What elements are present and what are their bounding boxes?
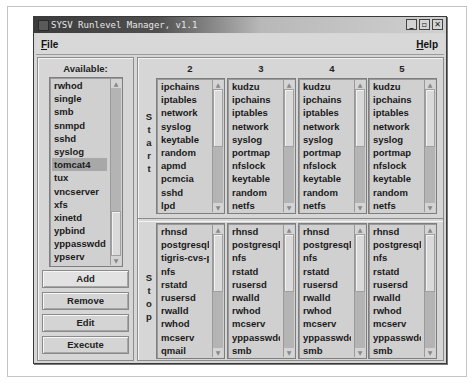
start-service-item[interactable]: syslog [159, 120, 209, 133]
scroll-up-arrow-icon[interactable]: ▲ [425, 225, 435, 234]
scroll-down-arrow-icon[interactable]: ▼ [284, 203, 294, 212]
stop-service-item[interactable]: rusersd [371, 278, 421, 291]
scroll-down-arrow-icon[interactable]: ▼ [213, 348, 223, 357]
stop-service-item[interactable]: rusersd [230, 278, 280, 291]
stop-service-item[interactable]: rhnsd [301, 225, 351, 238]
start-service-item[interactable]: keytable [301, 172, 351, 185]
window-menu-icon[interactable] [38, 20, 49, 31]
start-service-item[interactable]: lpd [159, 199, 209, 212]
scroll-down-arrow-icon[interactable]: ▼ [213, 203, 223, 212]
available-item[interactable]: ypbind [52, 224, 107, 237]
start-service-item[interactable]: portmap [301, 146, 351, 159]
stop-service-item[interactable]: nfs [301, 251, 351, 264]
stop-service-item[interactable]: smb [301, 344, 351, 357]
scroll-thumb[interactable] [355, 234, 365, 292]
stop-scrollbar[interactable]: ▲▼ [212, 225, 223, 357]
stop-listbox-runlevel-2[interactable]: rhnsdpostgresqltigris-cvs-psnfsrstatdrus… [156, 223, 225, 359]
available-item[interactable]: xinetd [52, 211, 107, 224]
start-service-item[interactable]: network [301, 120, 351, 133]
scroll-down-arrow-icon[interactable]: ▼ [284, 348, 294, 357]
start-service-item[interactable]: syslog [230, 133, 280, 146]
stop-service-item[interactable]: postgresql [371, 238, 421, 251]
scroll-thumb[interactable] [425, 234, 435, 292]
start-listbox-runlevel-3[interactable]: kudzuipchainsiptablesnetworksyslogportma… [227, 78, 296, 214]
stop-service-item[interactable]: nfs [371, 251, 421, 264]
available-item[interactable]: snmpd [52, 119, 107, 132]
scroll-thumb[interactable] [213, 234, 223, 292]
available-item[interactable]: yppasswdd [52, 237, 107, 250]
start-service-item[interactable]: random [230, 186, 280, 199]
scroll-thumb[interactable] [355, 89, 365, 147]
start-service-item[interactable]: kudzu [371, 80, 421, 93]
stop-service-item[interactable]: nfs [230, 251, 280, 264]
start-service-item[interactable]: sshd [159, 186, 209, 199]
scroll-down-arrow-icon[interactable]: ▼ [111, 256, 121, 265]
stop-listbox-runlevel-3[interactable]: rhnsdpostgresqlnfsrstatdrusersdrwalldrwh… [227, 223, 296, 359]
stop-service-item[interactable]: rstatd [371, 265, 421, 278]
start-scrollbar[interactable]: ▲▼ [424, 80, 435, 212]
start-service-item[interactable]: iptables [230, 106, 280, 119]
start-service-item[interactable]: network [371, 120, 421, 133]
title-bar[interactable]: SYSV Runlevel Manager, v1.1 _ ▫ ✕ [34, 17, 446, 33]
start-scrollbar[interactable]: ▲▼ [354, 80, 365, 212]
start-service-item[interactable]: pcmcia [159, 172, 209, 185]
available-item[interactable]: syslog [52, 145, 107, 158]
scroll-thumb[interactable] [425, 89, 435, 147]
scroll-thumb[interactable] [213, 89, 223, 147]
start-service-item[interactable]: apmd [159, 159, 209, 172]
scroll-thumb[interactable] [284, 89, 294, 147]
edit-button[interactable]: Edit [42, 314, 129, 332]
stop-service-item[interactable]: tigris-cvs-ps [159, 251, 209, 264]
start-service-item[interactable]: iptables [301, 106, 351, 119]
start-service-item[interactable]: netfs [301, 199, 351, 212]
start-listbox-runlevel-5[interactable]: kudzuipchainsiptablesnetworksyslogportma… [368, 78, 437, 214]
remove-button[interactable]: Remove [42, 292, 129, 310]
add-button[interactable]: Add [42, 270, 129, 288]
start-service-item[interactable]: netfs [371, 199, 421, 212]
stop-service-item[interactable]: rwhod [301, 304, 351, 317]
scroll-up-arrow-icon[interactable]: ▲ [213, 80, 223, 89]
stop-service-item[interactable]: rhnsd [159, 225, 209, 238]
stop-service-item[interactable]: rwhod [159, 317, 209, 330]
menu-help[interactable]: Help [416, 39, 438, 50]
start-scrollbar[interactable]: ▲▼ [212, 80, 223, 212]
stop-listbox-runlevel-5[interactable]: rhnsdpostgresqlnfsrstatdrusersdrwalldrwh… [368, 223, 437, 359]
stop-service-item[interactable]: postgresql [159, 238, 209, 251]
stop-service-item[interactable]: rwalld [159, 304, 209, 317]
stop-service-item[interactable]: mcserv [230, 317, 280, 330]
available-item[interactable]: xfs [52, 198, 107, 211]
start-listbox-runlevel-4[interactable]: kudzuipchainsiptablesnetworksyslogportma… [298, 78, 367, 214]
start-service-item[interactable]: random [301, 186, 351, 199]
start-scrollbar[interactable]: ▲▼ [283, 80, 294, 212]
stop-service-item[interactable]: rwhod [230, 304, 280, 317]
start-service-item[interactable]: nfslock [371, 159, 421, 172]
start-service-item[interactable]: syslog [371, 133, 421, 146]
start-service-item[interactable]: ipchains [301, 93, 351, 106]
stop-service-item[interactable]: rhnsd [371, 225, 421, 238]
available-item[interactable]: tomcat4 [52, 158, 107, 171]
start-service-item[interactable]: iptables [159, 93, 209, 106]
start-service-item[interactable]: keytable [371, 172, 421, 185]
stop-service-item[interactable]: qmail [159, 344, 209, 357]
start-service-item[interactable]: keytable [159, 133, 209, 146]
start-service-item[interactable]: nfslock [301, 159, 351, 172]
start-service-item[interactable]: kudzu [301, 80, 351, 93]
stop-service-item[interactable]: yppasswdd [230, 331, 280, 344]
stop-scrollbar[interactable]: ▲▼ [424, 225, 435, 357]
available-listbox[interactable]: rwhodsinglesmbsnmpdsshdsyslogtomcat4tuxv… [49, 77, 123, 267]
start-service-item[interactable]: syslog [301, 133, 351, 146]
stop-service-item[interactable]: yppasswdd [371, 331, 421, 344]
scroll-up-arrow-icon[interactable]: ▲ [284, 80, 294, 89]
available-item[interactable]: single [52, 92, 107, 105]
stop-service-item[interactable]: yppasswdd [301, 331, 351, 344]
start-listbox-runlevel-2[interactable]: ipchainsiptablesnetworksyslogkeytableran… [156, 78, 225, 214]
stop-scrollbar[interactable]: ▲▼ [354, 225, 365, 357]
stop-service-item[interactable]: rusersd [301, 278, 351, 291]
maximize-button[interactable]: ▫ [419, 19, 430, 30]
start-service-item[interactable]: kudzu [230, 80, 280, 93]
start-service-item[interactable]: random [159, 146, 209, 159]
stop-service-item[interactable]: rstatd [230, 265, 280, 278]
scroll-thumb[interactable] [111, 211, 121, 256]
start-service-item[interactable]: ipchains [230, 93, 280, 106]
available-item[interactable]: sshd [52, 132, 107, 145]
